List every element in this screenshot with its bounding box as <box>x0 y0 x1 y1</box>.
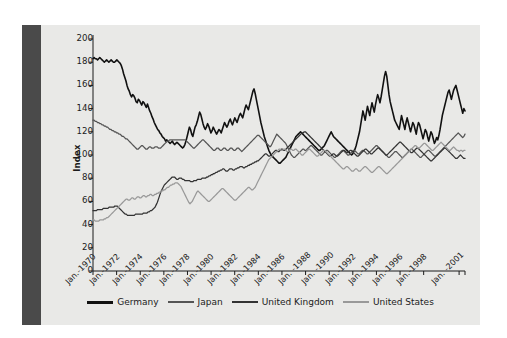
figure-page: Index 020406080100120140160180200 Jan.-1… <box>0 0 507 338</box>
legend-item[interactable]: United States <box>343 298 434 307</box>
legend-swatch-line <box>232 301 258 303</box>
legend-item-label: United Kingdom <box>262 298 334 307</box>
legend-swatch-line <box>168 301 194 303</box>
legend-item-label: Japan <box>198 298 223 307</box>
legend-swatch-line <box>343 301 369 303</box>
chart-figure: Index 020406080100120140160180200 Jan.-1… <box>41 25 480 325</box>
legend-item[interactable]: Germany <box>87 298 158 307</box>
legend-item[interactable]: United Kingdom <box>232 298 334 307</box>
chart-legend: GermanyJapanUnited KingdomUnited States <box>41 291 480 313</box>
book-spine-bar <box>22 25 41 325</box>
legend-item-label: United States <box>373 298 434 307</box>
plot-area: Index 020406080100120140160180200 Jan.-1… <box>41 25 480 325</box>
legend-swatch-line <box>87 301 113 304</box>
legend-item[interactable]: Japan <box>168 298 223 307</box>
series-line <box>93 142 465 221</box>
legend-item-label: Germany <box>117 298 158 307</box>
series-line <box>93 132 465 216</box>
